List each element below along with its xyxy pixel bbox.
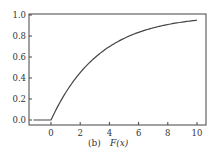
y-tick-label: 1.0 <box>12 10 26 20</box>
cdf-chart: 0.00.20.40.60.81.0 0246810 (b) F(x) <box>0 0 220 159</box>
x-axis-ticks: 0246810 <box>48 122 202 138</box>
x-tick-label: 0 <box>48 128 53 138</box>
y-tick-label: 0.4 <box>12 73 26 83</box>
x-tick-label: 10 <box>192 128 203 138</box>
x-tick-label: 8 <box>165 128 170 138</box>
y-tick-label: 0.8 <box>12 31 26 41</box>
x-tick-label: 2 <box>77 128 82 138</box>
plot-frame <box>29 14 206 125</box>
y-tick-label: 0.2 <box>12 94 26 104</box>
caption-label: (b) <box>88 138 101 148</box>
cdf-line <box>33 20 197 120</box>
y-tick-label: 0.0 <box>12 115 26 125</box>
y-tick-label: 0.6 <box>12 52 26 62</box>
x-tick-label: 4 <box>107 128 112 138</box>
caption-func: F(x) <box>109 138 129 148</box>
x-tick-label: 6 <box>136 128 141 138</box>
